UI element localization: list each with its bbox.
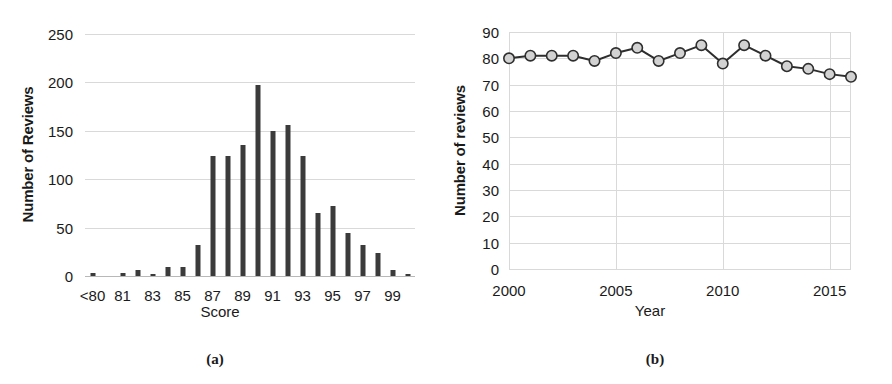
chart-b-y-axis-label: Number of reviews (451, 75, 468, 225)
chart-b-y-tick-label: 30 (446, 183, 499, 198)
chart-b-data-marker (653, 56, 663, 66)
chart-a-bar (180, 267, 185, 276)
chart-a-y-tick-label: 0 (0, 269, 73, 284)
chart-a-bar (300, 156, 305, 276)
chart-b-data-marker (589, 56, 599, 66)
chart-b-data-marker (739, 40, 749, 50)
chart-b-y-tick-label: 20 (446, 209, 499, 224)
chart-b-gridline (509, 269, 851, 270)
chart-b-data-marker (504, 53, 514, 63)
chart-a-gridline (85, 228, 415, 229)
chart-a-bar (135, 270, 140, 276)
chart-b-data-marker (611, 48, 621, 58)
chart-b-y-tick-label: 70 (446, 77, 499, 92)
chart-a-x-tick-label: 97 (354, 288, 371, 303)
chart-b-y-tick-label: 10 (446, 235, 499, 250)
chart-a-y-tick-label: 250 (0, 27, 73, 42)
chart-b-y-tick-label: 40 (446, 156, 499, 171)
figure-root: Number of Reviews 050100150200250 <80818… (0, 0, 892, 384)
chart-b-data-marker (803, 64, 813, 74)
chart-b-x-tick-label: 2015 (813, 283, 846, 298)
chart-a-y-tick-label: 200 (0, 75, 73, 90)
chart-a-bar (195, 245, 200, 276)
chart-a-bar (270, 131, 275, 276)
chart-b-data-marker (632, 43, 642, 53)
chart-a-bar (345, 233, 350, 276)
chart-b-data-marker (718, 58, 728, 68)
chart-a-bar (330, 206, 335, 276)
chart-b-data-marker (760, 51, 770, 61)
chart-a-bar (285, 125, 290, 276)
chart-b-x-tick-label: 2010 (706, 283, 739, 298)
chart-b-data-marker (568, 51, 578, 61)
chart-b-data-marker (525, 51, 535, 61)
chart-a-bar (240, 145, 245, 276)
chart-a-x-tick-label: <80 (80, 288, 105, 303)
chart-b-data-marker (547, 51, 557, 61)
chart-panel-b: Number of reviews 0102030405060708090 20… (446, 0, 892, 384)
chart-a-x-tick-label: 93 (294, 288, 311, 303)
chart-a-bar (390, 270, 395, 276)
chart-a-x-tick-label: 83 (144, 288, 161, 303)
chart-a-y-axis-label: Number of Reviews (19, 80, 36, 230)
chart-a-bar (90, 273, 95, 276)
chart-b-y-tick-label: 80 (446, 51, 499, 66)
chart-a-bar (165, 267, 170, 276)
chart-b-data-marker (696, 40, 706, 50)
chart-a-bar (405, 274, 410, 276)
chart-a-y-tick-label: 100 (0, 172, 73, 187)
chart-a-gridline (85, 131, 415, 132)
chart-a-gridline (85, 179, 415, 180)
chart-a-x-axis-line (85, 276, 415, 277)
chart-a-bar (315, 213, 320, 276)
chart-a-bar (255, 85, 260, 276)
chart-a-x-tick-label: 89 (234, 288, 251, 303)
chart-b-y-tick-label: 60 (446, 104, 499, 119)
chart-panel-a: Number of Reviews 050100150200250 <80818… (0, 0, 446, 384)
chart-b-x-tick-label: 2005 (599, 283, 632, 298)
chart-a-x-tick-label: 81 (114, 288, 131, 303)
chart-b-caption: (b) (646, 352, 664, 367)
chart-b-series (509, 32, 851, 269)
chart-a-bar (150, 274, 155, 276)
chart-a-bar (210, 156, 215, 276)
chart-a-y-tick-label: 50 (0, 220, 73, 235)
chart-a-bar (360, 245, 365, 276)
chart-b-data-marker (782, 61, 792, 71)
chart-a-x-tick-label: 99 (384, 288, 401, 303)
chart-a-caption: (a) (206, 352, 224, 367)
chart-b-plot-area (509, 32, 851, 269)
chart-a-gridline (85, 82, 415, 83)
chart-a-bar (375, 253, 380, 276)
chart-a-y-tick-label: 150 (0, 123, 73, 138)
chart-a-x-tick-label: 85 (174, 288, 191, 303)
chart-a-bar (120, 273, 125, 276)
chart-a-x-tick-label: 95 (324, 288, 341, 303)
chart-a-x-tick-label: 91 (264, 288, 281, 303)
chart-b-y-tick-label: 0 (446, 262, 499, 277)
chart-b-data-marker (824, 69, 834, 79)
chart-a-x-axis-label: Score (200, 304, 239, 319)
chart-a-gridline (85, 34, 415, 35)
chart-b-y-tick-label: 90 (446, 25, 499, 40)
chart-b-x-axis-label: Year (635, 303, 665, 318)
chart-a-bar (225, 156, 230, 276)
chart-b-y-tick-label: 50 (446, 130, 499, 145)
chart-b-x-tick-label: 2000 (492, 283, 525, 298)
chart-a-plot-area (85, 34, 415, 276)
chart-b-data-marker (846, 72, 856, 82)
chart-b-data-marker (675, 48, 685, 58)
chart-a-x-tick-label: 87 (204, 288, 221, 303)
